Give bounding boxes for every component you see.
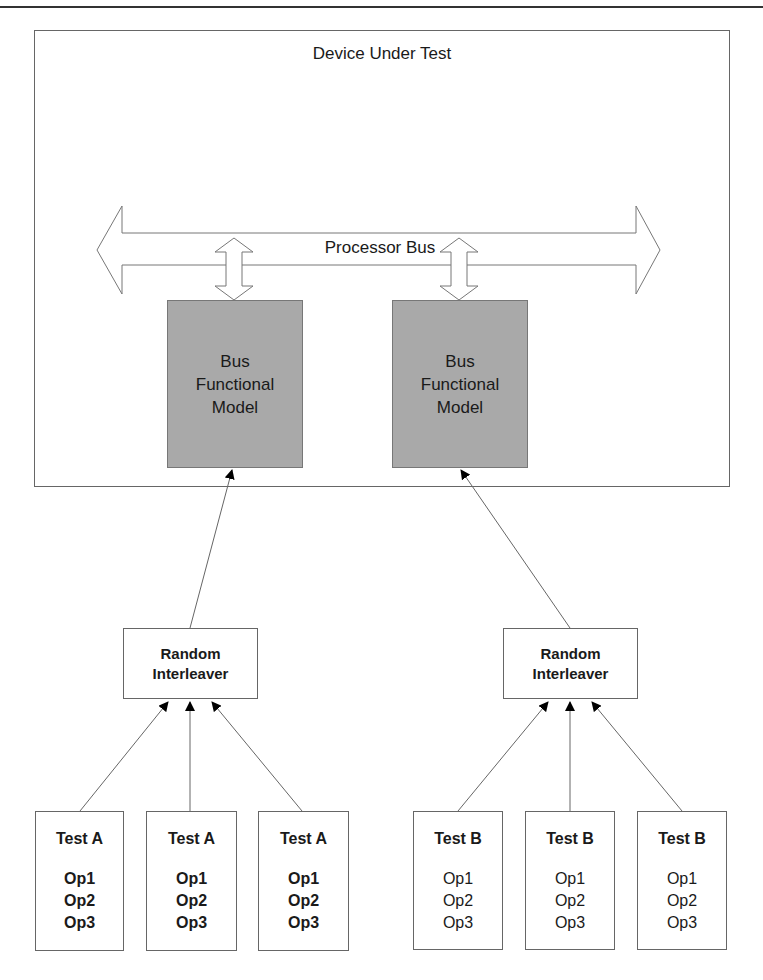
op-item: Op3 bbox=[259, 912, 348, 934]
random-interleaver-1: Random Interleaver bbox=[123, 628, 258, 699]
op-item: Op1 bbox=[147, 868, 236, 890]
bfm1-bus-connector bbox=[215, 238, 253, 300]
test-b-box-1: Test B Op1 Op2 Op3 bbox=[413, 811, 503, 950]
test-a-box-3: Test A Op1 Op2 Op3 bbox=[258, 811, 349, 951]
bfm1-line1: Bus bbox=[196, 350, 274, 373]
op-item: Op1 bbox=[36, 868, 123, 890]
op-item: Op3 bbox=[638, 912, 726, 934]
bfm1-line3: Model bbox=[196, 396, 274, 419]
bfm2-line3: Model bbox=[421, 396, 499, 419]
bfm1-line2: Functional bbox=[196, 373, 274, 396]
op-item: Op3 bbox=[526, 912, 614, 934]
test-title: Test A bbox=[36, 830, 123, 848]
test-a-box-1: Test A Op1 Op2 Op3 bbox=[35, 811, 124, 951]
ri2-line2: Interleaver bbox=[533, 664, 609, 684]
ri1-line1: Random bbox=[161, 644, 221, 664]
test-title: Test B bbox=[526, 830, 614, 848]
processor-bus-label: Processor Bus bbox=[260, 238, 500, 258]
op-item: Op3 bbox=[36, 912, 123, 934]
testB3-to-ri2-line bbox=[592, 702, 682, 811]
ri1-to-bfm1-line bbox=[190, 470, 232, 628]
op-item: Op2 bbox=[147, 890, 236, 912]
bus-functional-model-2: Bus Functional Model bbox=[392, 300, 528, 468]
op-item: Op2 bbox=[414, 890, 502, 912]
ri2-line1: Random bbox=[541, 644, 601, 664]
op-item: Op2 bbox=[259, 890, 348, 912]
ri1-line2: Interleaver bbox=[153, 664, 229, 684]
bfm2-line1: Bus bbox=[421, 350, 499, 373]
test-title: Test A bbox=[147, 830, 236, 848]
op-item: Op1 bbox=[259, 868, 348, 890]
testA3-to-ri1-line bbox=[212, 702, 302, 811]
bus-functional-model-1: Bus Functional Model bbox=[167, 300, 303, 468]
op-item: Op1 bbox=[414, 868, 502, 890]
op-item: Op3 bbox=[147, 912, 236, 934]
op-item: Op3 bbox=[414, 912, 502, 934]
test-b-box-3: Test B Op1 Op2 Op3 bbox=[637, 811, 727, 950]
test-title: Test B bbox=[414, 830, 502, 848]
ri2-to-bfm2-line bbox=[461, 470, 570, 628]
bfm2-line2: Functional bbox=[421, 373, 499, 396]
testA1-to-ri1-line bbox=[80, 702, 168, 811]
test-title: Test A bbox=[259, 830, 348, 848]
random-interleaver-2: Random Interleaver bbox=[503, 628, 638, 699]
op-item: Op2 bbox=[638, 890, 726, 912]
testB1-to-ri2-line bbox=[458, 702, 548, 811]
op-item: Op2 bbox=[526, 890, 614, 912]
op-item: Op2 bbox=[36, 890, 123, 912]
op-item: Op1 bbox=[638, 868, 726, 890]
test-a-box-2: Test A Op1 Op2 Op3 bbox=[146, 811, 237, 951]
test-title: Test B bbox=[638, 830, 726, 848]
test-b-box-2: Test B Op1 Op2 Op3 bbox=[525, 811, 615, 950]
op-item: Op1 bbox=[526, 868, 614, 890]
